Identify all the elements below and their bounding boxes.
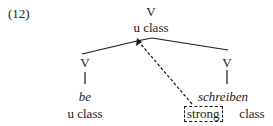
- tree-edges: [0, 0, 273, 126]
- strong-value-box: strong: [184, 106, 223, 122]
- right-feature: class: [239, 107, 264, 121]
- right-node-label: V: [222, 56, 231, 70]
- left-node-label: V: [80, 56, 89, 70]
- left-word: be: [79, 90, 91, 104]
- left-feature: u class: [67, 107, 102, 121]
- right-word: schreiben: [198, 90, 248, 104]
